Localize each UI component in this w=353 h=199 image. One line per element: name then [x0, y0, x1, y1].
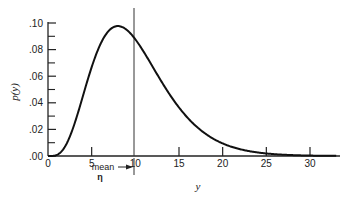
y-tick-label: .04: [29, 97, 43, 108]
y-axis-label: p(y): [8, 83, 21, 102]
y-tick-label: .00: [29, 151, 43, 162]
x-tick-label: 25: [261, 158, 273, 169]
density-curve: [48, 26, 336, 156]
eta-label: η: [97, 172, 103, 182]
y-ticks: .00.02.04.06.08.10: [29, 18, 56, 162]
x-tick-label: 15: [173, 158, 185, 169]
x-ticks: 051015202530: [45, 147, 316, 169]
y-tick-label: .10: [29, 18, 43, 29]
y-tick-label: .08: [29, 44, 43, 55]
density-chart: .00.02.04.06.08.10 051015202530 p(y) y m…: [0, 0, 353, 199]
x-tick-label: 20: [217, 158, 229, 169]
y-tick-label: .02: [29, 124, 43, 135]
mean-label: mean: [92, 162, 115, 172]
x-axis-label: y: [195, 180, 201, 192]
x-tick-label: 0: [45, 158, 51, 169]
y-tick-label: .06: [29, 71, 43, 82]
x-tick-label: 30: [304, 158, 316, 169]
